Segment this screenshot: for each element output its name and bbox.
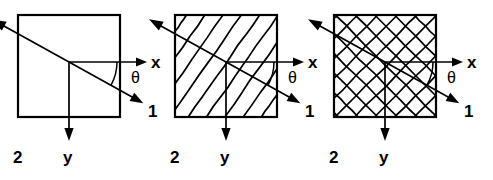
axis-label-1: 1 xyxy=(464,102,473,121)
theta-label: θ xyxy=(447,69,456,86)
panel-crosshatch: xy12θ xyxy=(0,0,493,180)
axis-label-y: y xyxy=(379,148,389,167)
axis-arrow-x xyxy=(385,57,463,66)
axis-label-2: 2 xyxy=(329,148,338,167)
figure-root: xy12θxy12θxy12θ xyxy=(0,0,493,180)
axis-label-x: x xyxy=(467,53,477,72)
